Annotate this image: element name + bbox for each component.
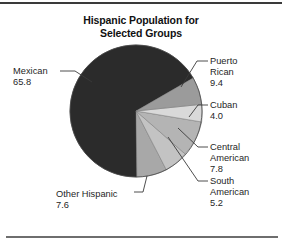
label-cuban-value: 4.0 — [210, 111, 237, 122]
label-puerto-rican-name: Puerto — [210, 56, 237, 67]
label-south-american-value: 5.2 — [210, 198, 249, 209]
label-central-american-name-2: American — [210, 153, 249, 164]
label-puerto-rican-name-2: Rican — [210, 67, 237, 78]
label-central-american-name: Central — [210, 142, 249, 153]
label-south-american-name-2: American — [210, 187, 249, 198]
bottom-divider-rule — [6, 236, 278, 238]
label-other-hispanic: Other Hispanic 7.6 — [56, 189, 118, 211]
label-mexican: Mexican 65.8 — [13, 66, 48, 88]
label-other-hispanic-name: Other Hispanic — [56, 189, 118, 200]
label-cuban-name: Cuban — [210, 100, 237, 111]
label-puerto-rican-value: 9.4 — [210, 78, 237, 89]
label-central-american-value: 7.8 — [210, 164, 249, 175]
label-mexican-value: 65.8 — [13, 77, 48, 88]
label-puerto-rican: Puerto Rican 9.4 — [210, 56, 237, 90]
label-cuban: Cuban 4.0 — [210, 100, 237, 122]
label-other-hispanic-value: 7.6 — [56, 200, 118, 211]
label-south-american-name: South — [210, 176, 249, 187]
pie-chart-figure: Hispanic Population for Selected Groups — [0, 0, 282, 245]
label-central-american: Central American 7.8 — [210, 142, 249, 176]
leader-line-other-hispanic — [134, 176, 147, 192]
label-south-american: South American 5.2 — [210, 176, 249, 210]
pie-slices — [70, 45, 202, 177]
label-mexican-name: Mexican — [13, 66, 48, 77]
